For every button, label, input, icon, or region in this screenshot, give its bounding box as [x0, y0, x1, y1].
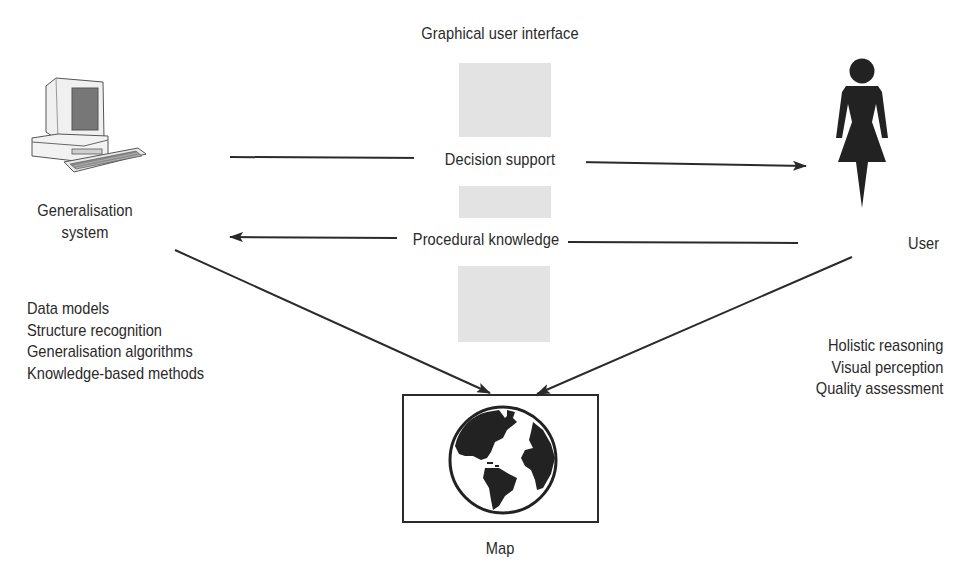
capability-item: Quality assessment — [815, 378, 943, 400]
system-label-line1: Generalisation — [21, 200, 150, 221]
system-label-line2: system — [21, 222, 150, 243]
gui-panel-top — [459, 63, 551, 137]
gui-panel-bottom — [458, 266, 550, 342]
user-label: User — [908, 233, 939, 254]
gui-label: Graphical user interface — [397, 23, 603, 44]
capability-item: Data models — [27, 298, 204, 320]
globe-icon — [447, 404, 559, 516]
capability-item: Structure recognition — [27, 320, 204, 342]
decision-support-label: Decision support — [414, 149, 586, 170]
user-capabilities-list: Holistic reasoning Visual perception Qua… — [815, 335, 943, 400]
gui-panel-middle — [459, 186, 551, 218]
capability-item: Knowledge-based methods — [27, 363, 204, 385]
computer-icon — [28, 72, 152, 176]
woman-user-icon — [834, 58, 890, 214]
system-capabilities-list: Data models Structure recognition Genera… — [27, 298, 204, 384]
capability-item: Generalisation algorithms — [27, 341, 204, 363]
procedural-knowledge-label: Procedural knowledge — [400, 229, 572, 250]
capability-item: Visual perception — [815, 357, 943, 379]
capability-item: Holistic reasoning — [815, 335, 943, 357]
map-label: Map — [448, 538, 551, 559]
